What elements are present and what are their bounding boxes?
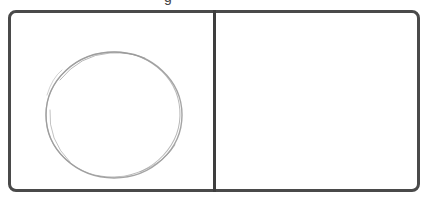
caption-fragment: g (164, 0, 172, 4)
left-panel (11, 13, 213, 189)
right-panel (216, 13, 417, 189)
panel-divider (213, 10, 216, 192)
